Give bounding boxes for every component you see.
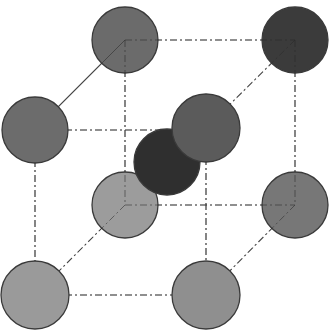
atom-front-top-right <box>172 94 240 162</box>
bcc-unit-cell-diagram <box>0 0 332 333</box>
atom-front-bottom-left <box>1 261 69 329</box>
lattice-canvas <box>0 0 332 333</box>
atom-front-top-left <box>2 97 68 163</box>
atom-front-bottom-right <box>172 261 240 329</box>
